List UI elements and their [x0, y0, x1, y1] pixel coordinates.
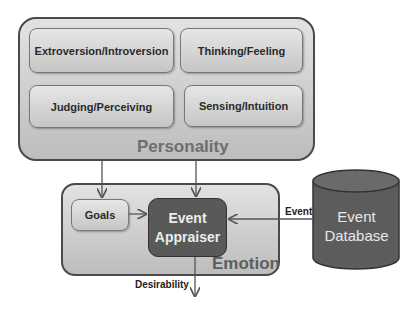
database-line2: Database — [313, 226, 400, 245]
connector-layer — [0, 0, 409, 315]
event-edge-label: Event — [285, 206, 312, 217]
database-label: Event Database — [313, 207, 400, 245]
database-line1: Event — [313, 207, 400, 226]
desirability-edge-label: Desirability — [135, 279, 189, 290]
